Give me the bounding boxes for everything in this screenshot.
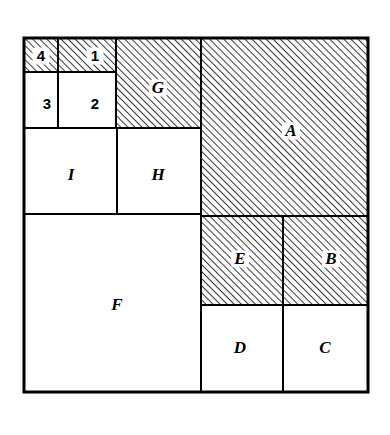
region-label-d: D — [233, 338, 246, 357]
region-label-f: F — [110, 295, 123, 314]
region-fill-2 — [58, 72, 116, 128]
region-label-3: 3 — [43, 95, 51, 112]
region-label-h: H — [150, 165, 165, 184]
region-label-g: G — [152, 78, 165, 97]
region-fill-3 — [24, 72, 58, 128]
region-label-4: 4 — [37, 47, 46, 64]
region-label-c: C — [319, 338, 331, 357]
region-label-a: A — [284, 121, 296, 140]
region-label-b: B — [324, 249, 336, 268]
region-label-2: 2 — [91, 95, 99, 112]
region-label-1: 1 — [91, 47, 99, 64]
squared-square-diagram: 41GA32IHFEBDC — [0, 0, 390, 435]
region-label-e: E — [233, 249, 245, 268]
figure-container: 41GA32IHFEBDC — [0, 0, 390, 435]
